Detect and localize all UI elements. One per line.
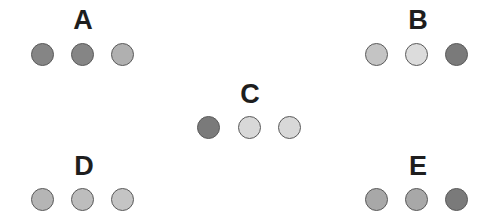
- group-c-label: C: [230, 81, 270, 108]
- group-c-circle-2: [238, 116, 261, 139]
- group-e-circle-1: [365, 188, 388, 211]
- diagram-canvas: A B C D E: [0, 0, 500, 224]
- group-c-circle-1: [197, 116, 220, 139]
- group-a-circle-1: [31, 43, 54, 66]
- group-c-circle-3: [278, 116, 301, 139]
- group-b-circle-3: [445, 43, 468, 66]
- group-d-label: D: [64, 153, 104, 180]
- group-e-circle-2: [405, 188, 428, 211]
- group-d-circle-2: [71, 188, 94, 211]
- group-a-circle-2: [71, 43, 94, 66]
- group-b-circle-1: [365, 43, 388, 66]
- group-b-circle-2: [405, 43, 428, 66]
- group-a-circle-3: [111, 43, 134, 66]
- group-d-circle-1: [31, 188, 54, 211]
- group-e-label: E: [398, 153, 438, 180]
- group-b-label: B: [398, 7, 438, 34]
- group-e-circle-3: [445, 188, 468, 211]
- group-d-circle-3: [111, 188, 134, 211]
- group-a-label: A: [63, 7, 103, 34]
